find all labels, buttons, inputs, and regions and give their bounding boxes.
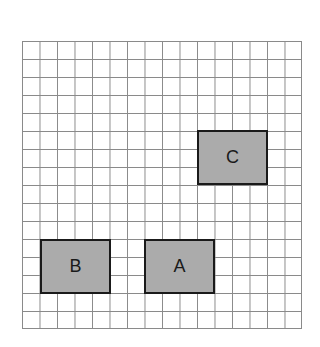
box-a-label: A (173, 256, 185, 277)
box-c-label: C (226, 147, 239, 168)
box-b: B (40, 239, 111, 294)
box-b-label: B (69, 256, 81, 277)
box-a: A (144, 239, 215, 294)
box-c: C (197, 130, 268, 185)
